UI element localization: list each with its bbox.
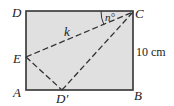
label-e: E [12, 51, 21, 66]
label-d-prime: D′ [55, 91, 68, 106]
rectangle-abcd [26, 11, 133, 90]
label-c: C [135, 6, 144, 21]
label-d: D [11, 5, 22, 20]
rectangle-fold-diagram: D C E A B D′ k n° 10 cm [0, 0, 174, 106]
label-b: B [134, 88, 142, 103]
label-side-length: 10 cm [136, 45, 166, 59]
label-angle-n: n° [105, 11, 116, 23]
label-k: k [64, 24, 70, 39]
label-a: A [12, 85, 21, 100]
